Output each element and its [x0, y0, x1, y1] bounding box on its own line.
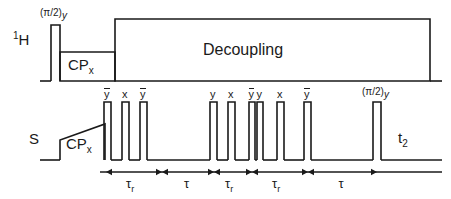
timing-arrow-left-1: [162, 169, 168, 175]
acquisition-index: 2: [402, 138, 408, 149]
s-pulse-1: [122, 102, 129, 160]
pulse-phase-label-4: x: [228, 89, 234, 100]
timing-symbol-tau-1: τ: [184, 176, 189, 191]
timing-label-tau-r-1: τr: [126, 177, 134, 194]
decoupling-label: Decoupling: [203, 42, 283, 58]
pulse-phase-label-5: y: [249, 89, 255, 100]
proton-cp-label: CPx: [68, 57, 94, 76]
pulse-phase-label-6: y: [257, 89, 263, 100]
pulse-phase-label-3: y: [210, 89, 216, 100]
s-pulse-7: [277, 102, 284, 160]
channel-label-proton: 1H: [13, 31, 29, 47]
s-pulse-9: [373, 102, 381, 160]
pulse-phase-4: x: [228, 88, 234, 100]
pulse-phase-3: y: [210, 88, 216, 100]
timing-arrow-left-3: [252, 169, 258, 175]
pulse-phase-5-bar: y: [249, 89, 255, 100]
pulse-phase-1: x: [122, 88, 128, 100]
s-final-angle: (π/2): [362, 86, 384, 97]
timing-arrow-left-2: [214, 169, 220, 175]
decoupling-text: Decoupling: [203, 41, 283, 58]
pulse-phase-label-2: y: [140, 89, 146, 100]
s-cp-phase: x: [87, 144, 92, 155]
timing-arrow-right-1: [208, 169, 214, 175]
channel-label-s: S: [29, 131, 39, 146]
timing-label-tau-r-2: τr: [225, 177, 233, 194]
s-final-pulse-label: (π/2)y: [362, 87, 389, 100]
timing-subscript-tau-r-1: r: [131, 184, 134, 194]
acquisition-label: t2: [398, 130, 408, 149]
s-pulse-4: [228, 102, 235, 160]
pulse-phase-label-0: y: [104, 89, 110, 100]
proton-cp-text: CP: [68, 56, 89, 73]
timing-arrow-right-3: [302, 169, 308, 175]
timing-symbol-tau-2: τ: [339, 176, 344, 191]
s-pulse-6: [257, 102, 263, 160]
pulse-phase-7: x: [277, 88, 283, 100]
proton-excitation-pulse-label: (π/2)y: [40, 8, 67, 21]
pulse-phase-label-7: x: [277, 89, 283, 100]
pulse-phase-2-bar: y: [140, 89, 146, 100]
s-cp-label: CPx: [66, 136, 92, 155]
timing-arrow-right-0: [156, 169, 162, 175]
timing-arrow-left-0: [106, 169, 112, 175]
s-final-phase: y: [384, 89, 389, 100]
proton-excitation-phase: y: [62, 10, 67, 21]
timing-subscript-tau-r-3: r: [277, 184, 280, 194]
timing-label-tau-1: τ: [184, 177, 189, 190]
proton-element: H: [19, 31, 30, 48]
s-pulse-2: [140, 102, 147, 160]
s-pulse-5: [249, 102, 255, 160]
pulse-phase-8-bar: y: [304, 89, 310, 100]
pulse-phase-6: y: [257, 88, 263, 100]
timing-arrow-right-2: [246, 169, 252, 175]
timing-subscript-tau-r-2: r: [230, 184, 233, 194]
timing-arrow-right-4: [371, 169, 377, 175]
pulse-phase-0-bar: y: [104, 89, 110, 100]
proton-cp-phase: x: [89, 65, 94, 76]
s-channel-symbol: S: [29, 130, 39, 147]
s-pulse-3: [210, 102, 217, 160]
pulse-phase-label-8: y: [304, 89, 310, 100]
timing-label-tau-2: τ: [339, 177, 344, 190]
proton-excitation-pulse: [51, 25, 60, 81]
proton-excitation-angle: (π/2): [40, 7, 62, 18]
timing-arrow-left-4: [308, 169, 314, 175]
pulse-sequence-figure: 1H S (π/2)y CPx Decoupling CPx (π/2)y t2…: [0, 0, 451, 199]
pulse-phase-label-1: x: [122, 89, 128, 100]
timing-label-tau-r-3: τr: [272, 177, 280, 194]
s-pulse-8: [304, 102, 311, 160]
s-cp-text: CP: [66, 135, 87, 152]
